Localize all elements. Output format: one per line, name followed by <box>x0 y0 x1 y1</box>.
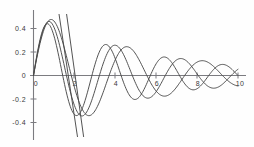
damped-oscillation-plot: 0.4 0.2 0 -0.2 -0.4 0 2 4 6 8 10 <box>0 0 254 147</box>
x-tick-label-4: 4 <box>114 80 118 87</box>
y-tick-label-0.4: 0.4 <box>15 25 26 32</box>
damped-sine-curve-1 <box>34 19 239 115</box>
x-tick-label-0: 0 <box>34 80 38 87</box>
y-tick-label-neg0.4: -0.4 <box>12 119 26 126</box>
damped-sine-curve-3 <box>34 24 239 116</box>
chart-screenshot: 0.4 0.2 0 -0.2 -0.4 0 2 4 6 8 10 <box>0 0 254 147</box>
y-tick-label-neg0.2: -0.2 <box>12 96 26 103</box>
x-tick-label-8: 8 <box>196 80 200 87</box>
x-tick-label-6: 6 <box>155 80 159 87</box>
y-tick-label-0.2: 0.2 <box>15 49 26 56</box>
y-tick-label-0: 0 <box>22 72 26 79</box>
damped-sine-curve-2 <box>34 21 239 116</box>
